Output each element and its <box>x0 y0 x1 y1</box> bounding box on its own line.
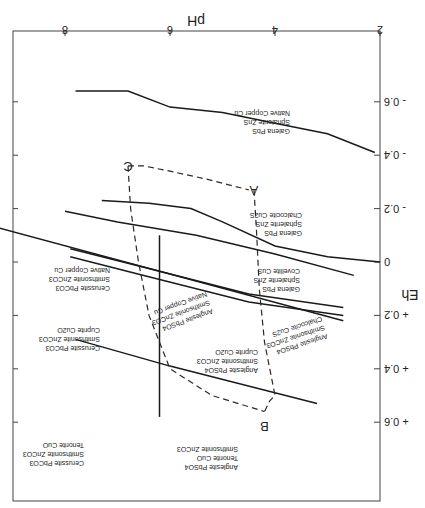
x-tick-label: 4 <box>272 24 278 36</box>
y-tick-label: + 0.2 <box>384 309 409 321</box>
field-cerussite-tenorite: Cerussite PbCO3Smithsonite ZnCO3Tenorite… <box>23 442 84 467</box>
field-label-line: Sphalerite ZnS <box>253 276 300 284</box>
x-tick-label: 8 <box>62 24 68 36</box>
point-label-b: B <box>260 419 269 434</box>
field-label-line: Smithsonite ZnCO3 <box>177 446 238 453</box>
field-labels: Galena PbSSphalerite ZnSNative Copper Cu… <box>23 109 329 471</box>
plot-frame <box>13 31 380 501</box>
y-tick-label: + 0.6 <box>384 416 409 428</box>
field-cerussite-native-copper: Cerussite PbCO3Smithsonite ZnCO3Native C… <box>49 266 110 292</box>
field-anglesite-tenorite: Anglesite PbSO4Tenorite CuOSmithsonite Z… <box>177 446 238 471</box>
field-anglesite-chalcocite: Anglesite PbSO4Smithsonite ZnCO3Chalcoci… <box>263 316 329 359</box>
field-cerussite-cuprite: Cerussite PbCO3Smithsonite ZnCO3Cuprite … <box>39 326 100 352</box>
native-copper-boundary <box>76 91 375 152</box>
eh-ph-diagram: 2468 - 0.6- 0.4- 0.20+ 0.2+ 0.4+ 0.6 pH … <box>0 0 425 508</box>
y-tick-label: 0 <box>384 256 390 268</box>
path-c-b <box>128 166 249 190</box>
field-label-line: Galena PbS <box>262 286 300 293</box>
y-tick-label: - 0.4 <box>384 149 406 161</box>
field-label-line: Sphalerite ZnS <box>243 118 290 126</box>
field-anglesite-cuprite: Anglesite PbSO4Smithsonite ZnCO3Cuprite … <box>197 348 258 374</box>
field-label-line: Cerussite PbCO3 <box>55 285 110 292</box>
field-label-line: Tenorite CuO <box>196 455 238 462</box>
field-label-line: Cuprite Cu2O <box>57 326 100 334</box>
x-tick-label: 2 <box>377 24 383 36</box>
field-label-line: Cuprite Cu2O <box>215 348 258 356</box>
field-label-line: Native Copper Cu <box>234 109 290 117</box>
field-label-line: Anglesite PbSO4 <box>185 463 238 471</box>
field-label-line: Sphalerite ZnS <box>255 220 302 228</box>
y-axis-ticks: - 0.6- 0.4- 0.20+ 0.2+ 0.4+ 0.6 <box>13 96 409 428</box>
field-label-line: Chalcocite Cu2S <box>250 212 302 219</box>
field-label-line: Smithsonite ZnCO3 <box>197 358 258 365</box>
field-label-line: Tenorite CuO <box>42 442 84 449</box>
chalcocite-covellite-boundary <box>102 201 380 262</box>
field-label-line: Native Copper Cu <box>54 266 110 274</box>
field-covellite: Galena PbSSphalerite ZnSCovellite CuS <box>253 268 300 293</box>
field-native-copper: Galena PbSSphalerite ZnSNative Copper Cu <box>234 109 290 135</box>
point-label-c: C <box>123 159 132 174</box>
y-tick-label: + 0.4 <box>384 363 409 375</box>
field-chalcocite: Galena PbSSphalerite ZnSChalcocite Cu2S <box>250 212 302 237</box>
y-tick-label: - 0.6 <box>384 96 406 108</box>
field-label-line: Smithsonite ZnCO3 <box>49 276 110 283</box>
y-axis-title: Eh <box>401 287 418 303</box>
x-tick-label: 6 <box>167 24 173 36</box>
field-label-line: Anglesite PbSO4 <box>205 366 258 374</box>
field-label-line: Cerussite PbCO3 <box>29 460 84 467</box>
field-label-line: Smithsonite ZnCO3 <box>39 336 100 343</box>
x-axis-ticks: 2468 <box>62 24 383 36</box>
field-label-line: Covellite CuS <box>257 268 300 275</box>
y-tick-label: - 0.2 <box>384 203 406 215</box>
field-anglesite-native-copper: Anglesite PbSO4Smithsonite ZnCO3Native C… <box>148 290 214 335</box>
boundary-lines <box>0 91 380 417</box>
field-label-line: Cerussite PbCO3 <box>45 345 100 352</box>
x-axis-title: pH <box>187 13 205 29</box>
field-label-line: Galena PbS <box>252 128 290 135</box>
field-label-line: Galena PbS <box>264 230 302 237</box>
point-label-a: A <box>249 183 258 198</box>
field-label-line: Smithsonite ZnCO3 <box>23 451 84 458</box>
